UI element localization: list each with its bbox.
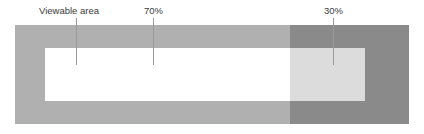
label-viewable-area: Viewable area (39, 5, 99, 17)
leader-line-30-percent (333, 18, 334, 65)
leader-line-70-percent (153, 18, 154, 65)
label-70-percent: 70% (144, 5, 163, 17)
leader-line-viewable-area (76, 18, 77, 65)
label-30-percent: 30% (324, 5, 343, 17)
viewable-area-overlap-region (290, 48, 365, 101)
proportion-diagram: Viewable area 70% 30% (0, 0, 424, 134)
